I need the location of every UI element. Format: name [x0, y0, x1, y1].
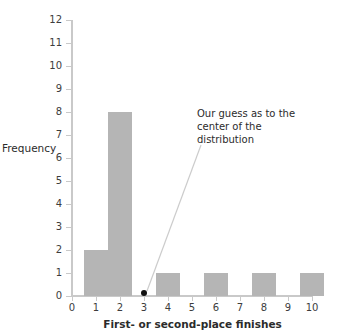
- histogram-bar: [108, 112, 132, 296]
- y-axis-line: [71, 20, 73, 297]
- x-tick-mark: [240, 297, 241, 301]
- y-tick-label: 9: [44, 84, 62, 94]
- y-tick-mark: [66, 273, 71, 274]
- y-tick-mark: [66, 204, 71, 205]
- y-tick-label: 3: [44, 222, 62, 232]
- histogram-bar: [252, 273, 276, 296]
- annotation-line: distribution: [197, 133, 329, 146]
- y-tick-label: 11: [44, 38, 62, 48]
- x-tick-mark: [312, 297, 313, 301]
- x-tick-label: 3: [132, 302, 156, 314]
- x-tick-mark: [168, 297, 169, 301]
- histogram-bar: [156, 273, 180, 296]
- y-tick-mark: [66, 135, 71, 136]
- y-axis-title: Frequency: [2, 142, 56, 154]
- annotation-line: Our guess as to the: [197, 107, 329, 120]
- y-tick-label: 0: [44, 291, 62, 301]
- x-tick-label: 9: [276, 302, 300, 314]
- y-tick-mark: [66, 89, 71, 90]
- center-guess-annotation: Our guess as to thecenter of thedistribu…: [197, 107, 329, 146]
- x-tick-label: 6: [204, 302, 228, 314]
- x-tick-label: 7: [228, 302, 252, 314]
- x-tick-label: 4: [156, 302, 180, 314]
- y-tick-mark: [66, 227, 71, 228]
- y-tick-label: 6: [44, 153, 62, 163]
- x-tick-label: 5: [180, 302, 204, 314]
- histogram-figure: 0123456789101112 012345678910 Frequency …: [0, 0, 343, 335]
- y-tick-label: 10: [44, 61, 62, 71]
- y-tick-label: 5: [44, 176, 62, 186]
- x-tick-mark: [288, 297, 289, 301]
- y-tick-mark: [66, 20, 71, 21]
- y-tick-mark: [66, 296, 71, 297]
- x-tick-label: 2: [108, 302, 132, 314]
- y-tick-label: 4: [44, 199, 62, 209]
- y-tick-label: 12: [44, 15, 62, 25]
- histogram-bar: [84, 250, 108, 296]
- x-tick-mark: [120, 297, 121, 301]
- x-tick-label: 8: [252, 302, 276, 314]
- annotation-line: center of the: [197, 120, 329, 133]
- y-tick-mark: [66, 250, 71, 251]
- x-tick-mark: [144, 297, 145, 301]
- x-axis-title: First- or second-place finishes: [0, 318, 343, 330]
- y-tick-mark: [66, 43, 71, 44]
- x-tick-mark: [264, 297, 265, 301]
- y-tick-label: 7: [44, 130, 62, 140]
- y-tick-mark: [66, 66, 71, 67]
- histogram-bar: [300, 273, 324, 296]
- x-tick-mark: [96, 297, 97, 301]
- x-tick-label: 1: [84, 302, 108, 314]
- y-tick-label: 1: [44, 268, 62, 278]
- x-tick-mark: [216, 297, 217, 301]
- x-tick-mark: [192, 297, 193, 301]
- y-tick-mark: [66, 112, 71, 113]
- center-guess-marker: [141, 290, 147, 296]
- x-tick-label: 10: [300, 302, 324, 314]
- y-tick-label: 8: [44, 107, 62, 117]
- y-tick-mark: [66, 158, 71, 159]
- histogram-bar: [204, 273, 228, 296]
- x-tick-label: 0: [60, 302, 84, 314]
- y-tick-mark: [66, 181, 71, 182]
- x-tick-mark: [72, 297, 73, 301]
- y-tick-label: 2: [44, 245, 62, 255]
